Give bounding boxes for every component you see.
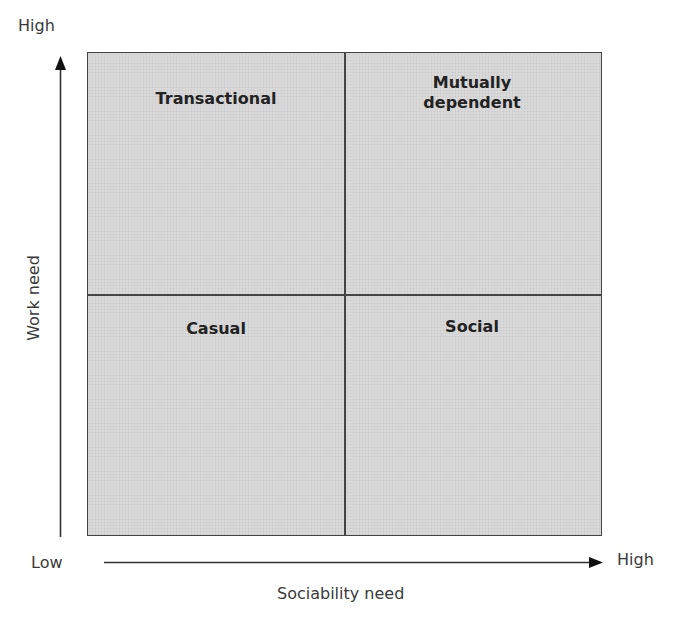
quadrant-matrix: Transactional Mutually dependent Casual … [87, 52, 602, 536]
axis-low-label: Low [31, 553, 63, 572]
x-axis-title: Sociability need [277, 584, 404, 603]
quadrant-mutually-dependent-text: Mutually dependent [417, 73, 527, 113]
x-axis-arrowhead-icon [589, 557, 603, 568]
quadrant-social: Social [344, 317, 600, 337]
y-axis-title: Work need [24, 255, 43, 341]
x-axis-high-label: High [617, 550, 654, 569]
quadrant-casual: Casual [88, 319, 344, 339]
y-axis-arrowhead-icon [55, 56, 66, 70]
quadrant-transactional: Transactional [88, 89, 344, 109]
quadrant-mutually-dependent: Mutually dependent [344, 73, 600, 113]
horizontal-divider [88, 294, 601, 296]
y-axis-high-label: High [18, 16, 55, 35]
